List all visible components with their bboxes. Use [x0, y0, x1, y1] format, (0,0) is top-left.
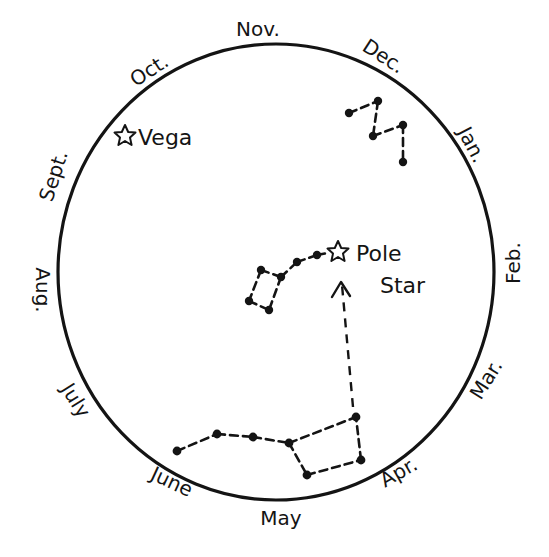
star-dot: [352, 413, 361, 422]
constellation-little-dipper: [245, 251, 328, 314]
constellation-line: [289, 417, 356, 443]
pole-star-label-line1: Pole: [356, 241, 402, 266]
constellation-line: [289, 443, 307, 475]
star-chart-canvas: Nov. Dec. Jan. Feb. Mar. Apr. May June J…: [0, 0, 549, 557]
vega-label: Vega: [138, 125, 192, 150]
constellation-big-dipper: [173, 413, 366, 480]
month-label-july: July: [55, 377, 96, 422]
star-dot: [399, 158, 407, 166]
star-dot: [265, 306, 273, 314]
arrow-head-icon: [332, 282, 350, 297]
pointer-dashed-line: [342, 285, 353, 407]
month-label-sept: Sept.: [34, 147, 73, 204]
star-dot: [249, 433, 258, 442]
constellation-line: [217, 434, 253, 437]
constellation-line: [307, 460, 361, 475]
constellation-line: [373, 101, 378, 136]
star-dot: [245, 297, 253, 305]
star-dot: [374, 97, 382, 105]
star-dot: [213, 430, 222, 439]
star-dot: [369, 132, 377, 140]
vega-star-icon: [115, 125, 136, 145]
month-label-feb: Feb.: [501, 242, 525, 284]
star-dot: [357, 456, 366, 465]
star-dot: [285, 439, 294, 448]
star-dot: [303, 471, 312, 480]
constellation-line: [349, 101, 378, 113]
star-dot: [345, 109, 353, 117]
constellation-line: [177, 434, 217, 451]
vega: Vega: [115, 125, 193, 150]
constellation-line: [356, 417, 361, 460]
pointer-arrow: [332, 282, 353, 407]
month-label-aug: Aug.: [31, 267, 55, 312]
constellation-line: [373, 125, 403, 136]
constellation-line: [249, 270, 261, 301]
star-dot: [257, 266, 265, 274]
month-label-dec: Dec.: [358, 34, 409, 79]
star-dot: [313, 251, 321, 259]
constellation-cassiopeia: [345, 97, 407, 166]
star-dot: [399, 121, 407, 129]
star-dot: [277, 273, 285, 281]
month-labels: Nov. Dec. Jan. Feb. Mar. Apr. May June J…: [31, 17, 525, 530]
pole-star-icon: [328, 241, 349, 261]
month-label-nov: Nov.: [236, 17, 280, 41]
star-dot: [173, 447, 182, 456]
constellation-line: [253, 437, 289, 443]
month-label-june: June: [145, 461, 196, 502]
season-ring: [58, 44, 494, 500]
month-label-may: May: [260, 506, 302, 530]
month-label-mar: Mar.: [465, 355, 508, 404]
constellation-line: [269, 277, 281, 310]
pole-star-label-line2: Star: [380, 273, 426, 298]
star-dot: [293, 258, 301, 266]
month-label-apr: Apr.: [376, 452, 422, 492]
star-chart: Nov. Dec. Jan. Feb. Mar. Apr. May June J…: [0, 0, 549, 557]
